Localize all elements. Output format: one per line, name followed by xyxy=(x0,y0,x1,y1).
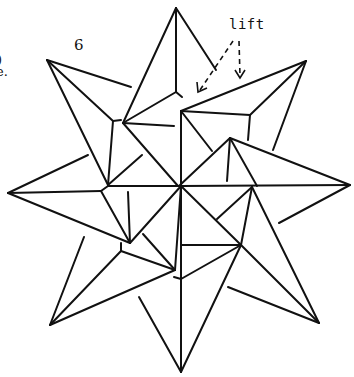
diagram-canvas: 6 lift ) e. xyxy=(0,0,354,377)
lift-annotation: lift xyxy=(229,16,265,32)
lift-arrows xyxy=(200,41,240,90)
step-number: 6 xyxy=(74,36,84,54)
star-outline-lines xyxy=(8,8,350,372)
origami-star-diagram xyxy=(0,0,354,377)
cropped-text-fragment: e. xyxy=(0,64,8,79)
